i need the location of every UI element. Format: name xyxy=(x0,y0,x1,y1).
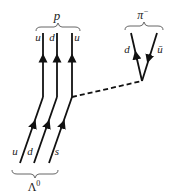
proton-brace xyxy=(36,23,80,31)
quark-label-d: d xyxy=(49,31,55,43)
proton-label: p xyxy=(53,8,61,23)
pion-brace xyxy=(125,22,163,30)
diagram-svg: p u d u d ū π− u d s Λ0 xyxy=(0,0,177,194)
w-boson-line xyxy=(72,81,142,97)
pion-quark-d: d xyxy=(124,43,130,55)
lambda-quark-u: u xyxy=(12,145,18,157)
pion-quark-ubar: ū xyxy=(157,43,163,55)
lambda-label: Λ0 xyxy=(28,179,41,194)
pion-label: π− xyxy=(137,7,148,22)
lambda-quark-d: d xyxy=(27,145,33,157)
lambda-brace xyxy=(12,170,58,178)
quark-diagram: p u d u d ū π− u d s Λ0 xyxy=(0,0,177,194)
quark-lines xyxy=(20,33,72,163)
quark-label-u1: u xyxy=(35,31,41,43)
quark-label-u2: u xyxy=(74,31,80,43)
pion-lines xyxy=(131,33,157,81)
lambda-quark-s: s xyxy=(55,145,59,157)
